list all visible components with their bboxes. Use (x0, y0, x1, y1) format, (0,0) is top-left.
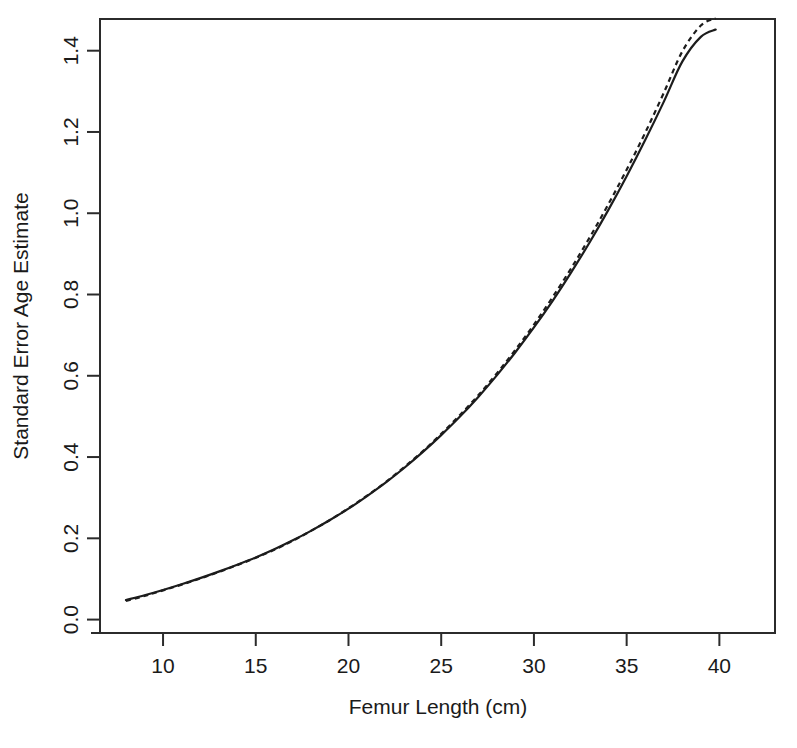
chart-figure: 10152025303540 0.00.20.40.60.81.01.21.4 … (0, 0, 797, 748)
data-series (126, 18, 716, 601)
y-axis-tick-labels: 0.00.20.40.60.81.01.21.4 (59, 36, 82, 634)
y-axis-title: Standard Error Age Estimate (9, 192, 32, 459)
y-tick-label-1.0: 1.0 (59, 199, 82, 228)
plot-frame (92, 19, 775, 633)
series-line-dashed (126, 18, 716, 601)
y-axis-ticks (87, 51, 100, 620)
y-tick-label-0.8: 0.8 (59, 280, 82, 309)
x-axis-title: Femur Length (cm) (349, 695, 528, 718)
x-tick-label-35: 35 (615, 654, 638, 677)
x-tick-label-30: 30 (522, 654, 545, 677)
x-tick-label-25: 25 (430, 654, 453, 677)
x-axis-tick-labels: 10152025303540 (151, 654, 731, 677)
series-line-solid (126, 30, 716, 601)
x-tick-label-20: 20 (337, 654, 360, 677)
y-tick-label-1.2: 1.2 (59, 117, 82, 146)
plot-canvas: 10152025303540 0.00.20.40.60.81.01.21.4 … (0, 0, 797, 748)
plot-box-outline (100, 19, 775, 633)
x-axis-ticks (163, 633, 719, 646)
y-tick-label-1.4: 1.4 (59, 36, 82, 66)
y-tick-label-0.2: 0.2 (59, 524, 82, 553)
y-tick-label-0.4: 0.4 (59, 442, 82, 472)
y-tick-label-0.6: 0.6 (59, 361, 82, 390)
x-tick-label-15: 15 (244, 654, 267, 677)
y-tick-label-0.0: 0.0 (59, 605, 82, 634)
x-tick-label-10: 10 (151, 654, 174, 677)
x-tick-label-40: 40 (708, 654, 731, 677)
